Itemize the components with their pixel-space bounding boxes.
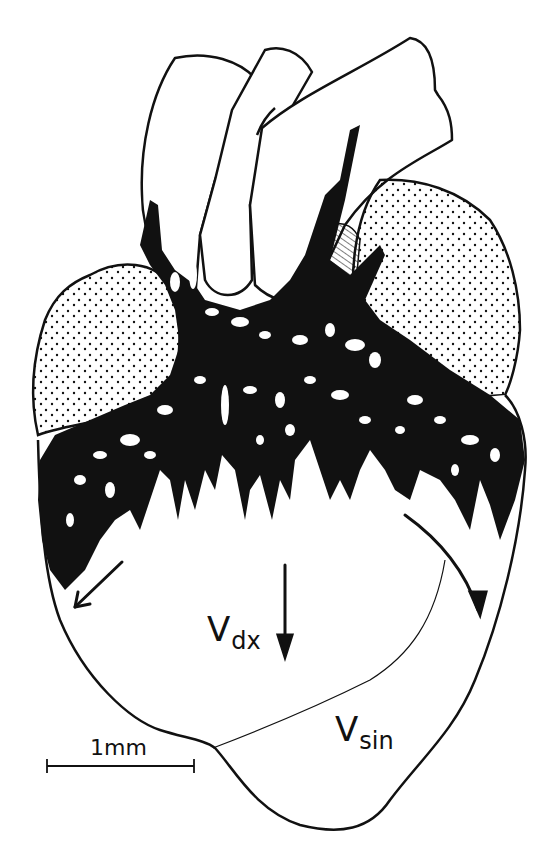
label-v: V xyxy=(207,609,230,649)
scale-bar xyxy=(47,759,194,773)
scale-bar-label: 1mm xyxy=(90,737,147,759)
label-v: V xyxy=(335,709,358,749)
heart-diagram: Vdx Vsin 1mm xyxy=(0,0,555,859)
label-subscript-dx: dx xyxy=(231,627,260,655)
heart-illustration xyxy=(0,0,555,859)
label-left-ventricle: Vsin xyxy=(335,712,394,746)
label-subscript-sin: sin xyxy=(359,727,393,755)
label-right-ventricle: Vdx xyxy=(207,612,261,646)
